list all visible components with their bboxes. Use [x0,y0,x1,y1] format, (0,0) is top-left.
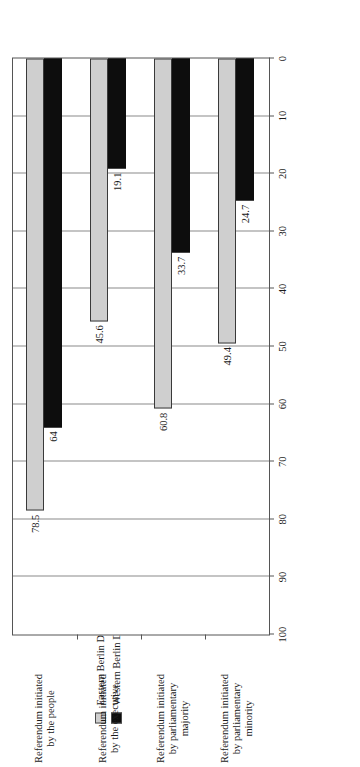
bar-western [108,58,126,168]
gridline [13,460,269,461]
gridline [13,518,269,519]
category-axis-tick [141,634,142,639]
value-axis-tick [269,172,274,173]
value-axis-tick-label: 30 [277,226,288,237]
plot-area: 0102030405060708090100Referendum initiat… [12,57,270,635]
value-axis-tick-label: 80 [277,514,288,525]
bar-value-label: 45.6 [93,325,104,345]
bar-eastern [26,58,44,510]
category-label-line: Referendum initiated [33,643,45,767]
bar-value-label: 19.1 [112,172,123,192]
value-axis-tick-label: 0 [277,55,288,60]
value-axis-tick [269,345,274,346]
value-axis-tick-label: 60 [277,398,288,409]
category-label-line: majority [179,643,191,767]
category-label-line: by parliamentary [167,643,179,767]
bar-value-label: 24.7 [240,204,251,224]
value-axis-tick-label: 100 [277,626,288,642]
value-axis-tick-label: 50 [277,341,288,352]
bar-eastern [154,58,172,408]
value-axis-tick [269,633,274,634]
value-axis-tick-label: 40 [277,283,288,294]
value-axis-tick [269,115,274,116]
category-label: Referendum initiatedby parliamentarymajo… [155,643,191,767]
value-axis-tick [269,287,274,288]
bar-eastern [218,58,236,343]
bar-value-label: 49.4 [221,347,232,367]
category-label: Referendum initiatedby the people [33,643,57,767]
category-label: Referendum initiatedby the executive [97,643,121,767]
bar-eastern [90,58,108,321]
value-axis-tick-label: 10 [277,110,288,121]
value-axis-tick [269,518,274,519]
value-axis-tick-label: 90 [277,571,288,582]
category-label-line: minority [243,643,255,767]
category-label-line: by parliamentary [231,643,243,767]
value-axis-tick [269,230,274,231]
category-axis-tick [77,634,78,639]
bar-value-label: 33.7 [176,256,187,276]
gridline [13,575,269,576]
category-label: Referendum initiatedby parliamentarymino… [219,643,255,767]
bar-value-label: 60.8 [157,412,168,432]
bar-western [172,58,190,252]
value-axis-tick [269,403,274,404]
bar-western [44,58,62,427]
value-axis-tick [269,575,274,576]
category-label-line: Referendum initiated [155,643,167,767]
category-label-line: Referendum initiated [97,643,109,767]
category-label-line: Referendum initiated [219,643,231,767]
value-axis-tick-label: 20 [277,168,288,179]
category-label-line: by the people [45,643,57,767]
bar-value-label: 64 [48,431,59,451]
category-label-line: by the executive [109,643,121,767]
value-axis-tick [269,57,274,58]
value-axis-tick-label: 70 [277,456,288,467]
value-axis-tick [269,460,274,461]
bar-western [236,58,254,200]
category-axis-tick [205,634,206,639]
bar-value-label: 78.5 [29,514,40,534]
